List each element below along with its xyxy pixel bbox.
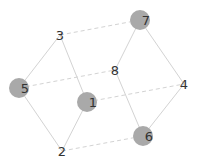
graph-diagram: 12345678 bbox=[0, 0, 199, 166]
edge-3-1 bbox=[60, 35, 87, 102]
edge-2-6 bbox=[62, 136, 143, 151]
node-label: 8 bbox=[111, 63, 119, 78]
node-1: 1 bbox=[77, 92, 97, 112]
node-3: 3 bbox=[56, 28, 64, 43]
node-6: 6 bbox=[133, 126, 153, 146]
edges-layer bbox=[19, 20, 184, 151]
node-2: 2 bbox=[58, 144, 66, 159]
node-label: 1 bbox=[89, 95, 97, 110]
edge-5-8 bbox=[19, 70, 115, 88]
node-7: 7 bbox=[130, 10, 150, 30]
edge-3-7 bbox=[60, 20, 140, 35]
node-label: 6 bbox=[145, 129, 153, 144]
node-5: 5 bbox=[9, 78, 29, 98]
node-label: 7 bbox=[142, 13, 150, 28]
edge-5-2 bbox=[19, 88, 62, 151]
edge-1-4 bbox=[87, 84, 184, 102]
edge-8-6 bbox=[115, 70, 143, 136]
node-label: 2 bbox=[58, 144, 66, 159]
node-label: 4 bbox=[180, 77, 188, 92]
node-label: 5 bbox=[21, 81, 29, 96]
node-4: 4 bbox=[180, 77, 188, 92]
graph-svg: 12345678 bbox=[0, 0, 199, 166]
edge-7-4 bbox=[140, 20, 184, 84]
node-8: 8 bbox=[111, 63, 119, 78]
node-label: 3 bbox=[56, 28, 64, 43]
